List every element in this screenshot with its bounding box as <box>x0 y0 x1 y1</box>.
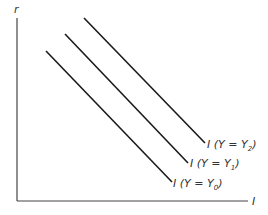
x-axis-label: I <box>252 195 255 208</box>
investment-curve-y0 <box>46 51 172 182</box>
investment-curve-y1 <box>65 34 188 163</box>
curve-label-y1: I (Y = Y1) <box>190 157 239 172</box>
curve-label-y2: I (Y = Y2) <box>207 138 256 153</box>
y-axis-label: r <box>14 3 20 16</box>
curve-label-y0: I (Y = Y0) <box>173 177 222 192</box>
investment-diagram: r I I (Y = Y0) I (Y = Y1) I (Y = Y2) <box>0 0 268 215</box>
investment-curve-y2 <box>84 18 205 143</box>
